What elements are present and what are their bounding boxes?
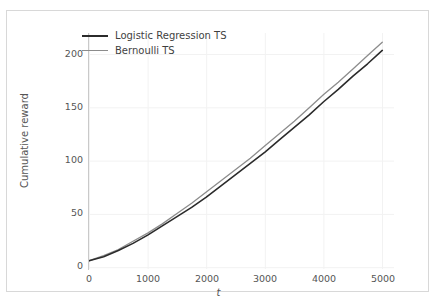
plot-area xyxy=(89,33,394,269)
legend-label: Bernoulli TS xyxy=(115,45,175,56)
legend-item-bernoulli-ts: Bernoulli TS xyxy=(82,43,265,58)
x-tick-label-5000: 5000 xyxy=(353,273,413,284)
x-tick-label-1000: 1000 xyxy=(118,273,178,284)
y-tick-label-100: 100 xyxy=(43,155,83,165)
y-tick-label-50: 50 xyxy=(43,208,83,218)
x-tick-label-2000: 2000 xyxy=(177,273,237,284)
y-axis-label: Cumulative reward xyxy=(19,61,30,221)
x-tick-label-4000: 4000 xyxy=(294,273,354,284)
line-series-bernoulli-ts xyxy=(89,42,382,261)
y-tick-label-0: 0 xyxy=(43,261,83,271)
y-tick-label-200: 200 xyxy=(43,49,83,59)
legend-label: Logistic Regression TS xyxy=(115,30,227,41)
y-tick-label-150: 150 xyxy=(43,102,83,112)
x-tick-label-0: 0 xyxy=(59,273,119,284)
x-tick-label-3000: 3000 xyxy=(235,273,295,284)
x-axis-tick-labels: 0 1000 2000 3000 4000 5000 xyxy=(7,273,430,287)
legend-item-logistic-regression-ts: Logistic Regression TS xyxy=(82,28,265,43)
y-axis-tick-labels: 200 150 100 50 0 xyxy=(35,11,83,293)
chart-svg xyxy=(89,33,394,269)
figure-container: 200 150 100 50 0 0 10 xyxy=(6,10,429,292)
chart-legend: Logistic Regression TS Bernoulli TS xyxy=(79,25,269,61)
legend-line-swatch-icon xyxy=(82,35,108,37)
legend-line-swatch-icon xyxy=(82,50,108,51)
x-axis-label: t xyxy=(7,287,430,298)
grid-lines xyxy=(89,33,394,269)
